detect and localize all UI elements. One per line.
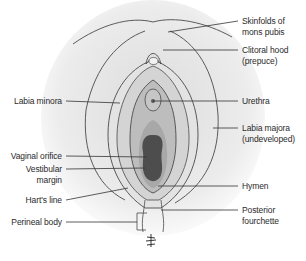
label-line: Labia minora xyxy=(14,96,62,107)
label-line: (undeveloped) xyxy=(242,134,295,145)
label-harts-line: Hart's line xyxy=(26,195,62,206)
label-line: Posterior xyxy=(242,205,279,216)
label-line: margin xyxy=(26,175,62,186)
label-clitoral-hood: Clitoral hood (prepuce) xyxy=(242,45,288,66)
anatomy-diagram: Skinfolds of mons pubis Clitoral hood (p… xyxy=(0,0,306,261)
label-line: Hart's line xyxy=(26,195,62,206)
label-labia-minora: Labia minora xyxy=(14,96,62,107)
label-vaginal-orifice: Vaginal orifice xyxy=(11,151,62,162)
label-line: Labia majora xyxy=(242,123,295,134)
label-vestibular-margin: Vestibular margin xyxy=(26,164,62,185)
label-line: mons pubis xyxy=(242,27,285,38)
label-skinfolds-mons-pubis: Skinfolds of mons pubis xyxy=(242,16,285,37)
clitoris xyxy=(149,58,158,65)
label-line: Clitoral hood xyxy=(242,45,288,56)
label-line: Urethra xyxy=(242,96,270,107)
label-hymen: Hymen xyxy=(242,181,268,192)
vaginal-orifice-shape xyxy=(142,135,162,181)
label-line: (prepuce) xyxy=(242,56,288,67)
label-line: Vaginal orifice xyxy=(11,151,62,162)
label-line: Perineal body xyxy=(11,217,62,228)
label-labia-majora: Labia majora (undeveloped) xyxy=(242,123,295,144)
label-line: fourchette xyxy=(242,216,279,227)
label-line: Vestibular xyxy=(26,164,62,175)
label-urethra: Urethra xyxy=(242,96,270,107)
label-posterior-fourchette: Posterior fourchette xyxy=(242,205,279,226)
label-line: Skinfolds of xyxy=(242,16,285,27)
label-perineal-body: Perineal body xyxy=(11,217,62,228)
label-line: Hymen xyxy=(242,181,268,192)
